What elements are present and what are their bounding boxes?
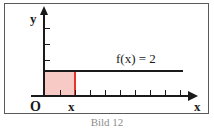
y-axis-arrow-icon: [40, 6, 48, 15]
x-axis-tick: [75, 90, 76, 95]
x-axis-tick: [60, 90, 61, 95]
x-axis-tick: [90, 90, 91, 95]
y-axis-tick: [45, 28, 50, 29]
y-axis-tick: [45, 60, 50, 61]
function-line-fx: [43, 70, 183, 72]
figure-caption: Bild 12: [0, 117, 214, 128]
plot-area: y x O x f(x) = 2: [5, 4, 210, 115]
figure-frame: y x O x f(x) = 2: [4, 3, 209, 114]
x-axis-label: x: [194, 100, 201, 113]
x-axis-line: [31, 95, 191, 97]
function-equation-label: f(x) = 2: [116, 52, 156, 65]
figure-root: y x O x f(x) = 2 Bild 12: [0, 0, 214, 128]
x-axis-tick: [105, 90, 106, 95]
origin-label: O: [30, 100, 41, 114]
x-point-label: x: [68, 100, 75, 113]
x-axis-tick: [135, 90, 136, 95]
x-axis-tick: [165, 90, 166, 95]
y-axis-label: y: [30, 12, 37, 25]
y-axis-line: [43, 13, 45, 96]
x-axis-tick: [180, 90, 181, 95]
x-axis-tick: [150, 90, 151, 95]
y-axis-tick: [45, 44, 50, 45]
x-axis-tick: [120, 90, 121, 95]
